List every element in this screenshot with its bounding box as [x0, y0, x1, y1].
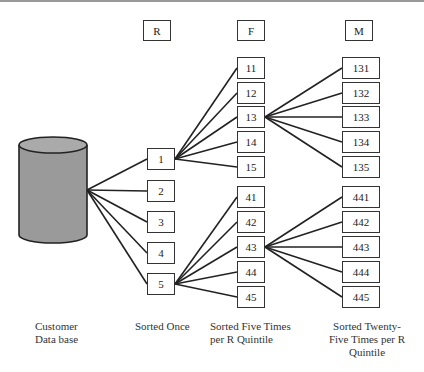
m-box: 444: [342, 261, 380, 283]
f-box: 14: [237, 131, 265, 153]
caption-m: Sorted Twenty- Five Times per R Quintile: [320, 320, 414, 359]
header-r-box: R: [143, 20, 171, 41]
r-box: 2: [147, 180, 175, 202]
f-box: 43: [237, 236, 265, 258]
f-box: 41: [237, 186, 265, 208]
m-box: 134: [342, 131, 380, 153]
header-m-box: M: [345, 20, 373, 41]
f-box: 13: [237, 106, 265, 128]
m-box: 442: [342, 211, 380, 233]
f-box: 45: [237, 286, 265, 308]
m-box: 132: [342, 82, 380, 104]
m-box: 133: [342, 106, 380, 128]
f-box: 12: [237, 82, 265, 104]
database-cylinder-icon: [19, 137, 87, 243]
m-box: 441: [342, 186, 380, 208]
f-box: 42: [237, 211, 265, 233]
caption-f: Sorted Five Times per R Quintile: [210, 320, 291, 346]
f-box: 44: [237, 261, 265, 283]
r-box: 5: [147, 273, 175, 295]
m-box: 135: [342, 156, 380, 178]
f-box: 15: [237, 156, 265, 178]
header-f-box: F: [237, 20, 265, 41]
r-box: 1: [147, 148, 175, 170]
r-box: 4: [147, 242, 175, 264]
m-box: 443: [342, 236, 380, 258]
m-box: 131: [342, 57, 380, 79]
caption-r: Sorted Once: [135, 320, 190, 333]
m-box: 445: [342, 286, 380, 308]
caption-database: Customer Data base: [35, 320, 78, 346]
f-box: 11: [237, 57, 265, 79]
r-box: 3: [147, 211, 175, 233]
